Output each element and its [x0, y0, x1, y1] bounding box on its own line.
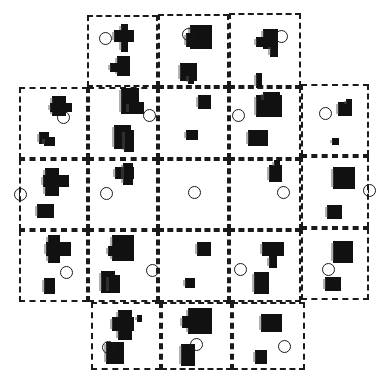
- speckle-noise: [119, 90, 122, 112]
- dark-blob: [44, 278, 55, 294]
- speckle-noise: [178, 65, 181, 79]
- dark-blob: [112, 317, 134, 331]
- circle-marker-icon: [275, 30, 288, 43]
- dark-blob: [123, 163, 133, 185]
- dark-blob: [114, 30, 134, 42]
- dark-blob: [263, 92, 280, 102]
- dark-blob: [197, 242, 211, 256]
- circle-marker-icon: [146, 264, 159, 277]
- circle-marker-icon: [143, 109, 156, 122]
- dark-blob: [269, 256, 277, 268]
- dark-blob: [255, 350, 267, 364]
- dark-blob: [108, 275, 120, 293]
- speckle-noise: [254, 97, 257, 115]
- circle-marker-icon: [102, 341, 115, 354]
- speckle-noise: [112, 32, 115, 40]
- dark-blob: [188, 308, 212, 334]
- circle-marker-icon: [234, 263, 247, 276]
- circle-marker-icon: [100, 187, 113, 200]
- panel-r0c3: [229, 13, 301, 87]
- dark-blob: [248, 130, 268, 146]
- speckle-noise: [106, 248, 109, 254]
- speckle-noise: [254, 75, 257, 86]
- circle-marker-icon: [363, 184, 376, 197]
- speckle-noise: [254, 39, 257, 45]
- speckle-noise: [48, 105, 51, 110]
- speckle-noise: [135, 317, 138, 320]
- speckle-noise: [268, 47, 271, 55]
- speckle-noise: [122, 132, 125, 150]
- panel-r1c2: [158, 87, 229, 159]
- dark-blob: [256, 37, 265, 47]
- circle-tick-mark: [368, 187, 369, 193]
- dark-blob: [325, 277, 341, 291]
- circle-marker-icon: [232, 109, 245, 122]
- circle-marker-icon: [182, 28, 195, 41]
- panel-r4c3: [232, 302, 305, 370]
- panel-r1c4: [301, 84, 369, 156]
- speckle-noise: [267, 167, 270, 180]
- dark-blob: [128, 102, 144, 114]
- dark-blob: [110, 63, 120, 72]
- speckle-noise: [186, 76, 189, 82]
- circle-marker-icon: [14, 188, 27, 201]
- circle-marker-icon: [190, 338, 203, 351]
- dark-blob: [185, 278, 195, 288]
- dark-blob: [124, 130, 134, 152]
- circle-marker-icon: [319, 107, 332, 120]
- speckle-noise: [331, 243, 334, 261]
- speckle-noise: [260, 244, 263, 254]
- circle-marker-icon: [188, 186, 201, 199]
- speckle-noise: [99, 273, 102, 291]
- speckle-noise: [113, 169, 116, 177]
- speckle-noise: [246, 132, 249, 144]
- circle-marker-icon: [278, 340, 291, 353]
- speckle-noise: [272, 162, 275, 166]
- speckle-noise: [259, 316, 262, 330]
- speckle-noise: [325, 207, 328, 217]
- circle-tick-mark: [19, 191, 20, 197]
- speckle-noise: [37, 134, 40, 142]
- speckle-noise: [196, 97, 199, 107]
- speckle-noise: [267, 258, 270, 266]
- dark-blob: [182, 316, 190, 328]
- speckle-noise: [108, 65, 111, 70]
- dark-blob: [37, 204, 54, 218]
- dark-blob: [333, 167, 355, 189]
- panel-r3c2: [158, 230, 229, 302]
- speckle-noise: [252, 274, 255, 292]
- speckle-noise: [112, 127, 115, 147]
- speckle-noise: [179, 346, 182, 364]
- dark-blob: [332, 138, 339, 145]
- dark-blob: [270, 45, 278, 57]
- speckle-noise: [126, 104, 129, 112]
- dark-blob: [254, 272, 269, 294]
- dark-blob: [261, 314, 282, 332]
- speckle-noise: [253, 352, 256, 362]
- dark-blob: [333, 241, 353, 263]
- speckle-noise: [180, 318, 183, 326]
- speckle-noise: [336, 104, 339, 114]
- dark-blob: [262, 242, 284, 256]
- circle-marker-icon: [277, 186, 290, 199]
- dark-blob: [327, 205, 342, 219]
- speckle-noise: [184, 132, 187, 138]
- speckle-noise: [42, 139, 45, 144]
- speckle-noise: [121, 165, 124, 183]
- panel-r2c3: [229, 159, 301, 230]
- panel-grid-figure: [0, 0, 385, 385]
- speckle-noise: [195, 244, 198, 254]
- speckle-noise: [41, 177, 44, 185]
- circle-marker-icon: [322, 263, 335, 276]
- dark-blob: [46, 242, 71, 256]
- circle-marker-icon: [60, 266, 73, 279]
- dark-blob: [108, 246, 118, 256]
- circle-marker-icon: [99, 32, 112, 45]
- speckle-noise: [344, 101, 347, 104]
- speckle-noise: [35, 206, 38, 216]
- dark-blob: [44, 137, 55, 146]
- dark-blob: [43, 175, 69, 187]
- speckle-noise: [110, 319, 113, 329]
- circle-marker-icon: [57, 111, 70, 124]
- speckle-noise: [323, 279, 326, 289]
